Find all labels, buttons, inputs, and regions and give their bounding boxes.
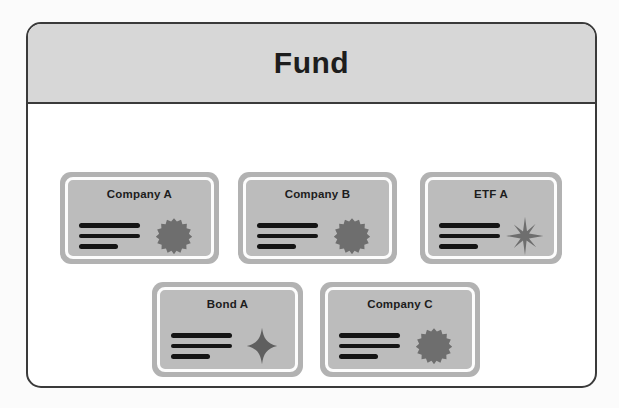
holding-text-lines <box>79 223 140 249</box>
holding-label: Bond A <box>160 298 295 310</box>
holding-text-lines <box>339 333 400 359</box>
text-line <box>171 354 210 359</box>
holding-text-lines <box>171 333 232 359</box>
holding-card-body <box>68 211 211 259</box>
text-line <box>439 223 500 228</box>
holding-card-company-c[interactable]: Company C <box>320 282 480 377</box>
holding-card-company-b[interactable]: Company B <box>238 172 397 264</box>
card-inner-frame: Company A <box>65 177 214 259</box>
text-line <box>257 234 318 239</box>
text-line <box>439 244 478 249</box>
card-inner-frame: ETF A <box>425 177 557 259</box>
diagram-canvas: Fund Company A <box>0 0 619 408</box>
holding-card-body <box>428 211 554 259</box>
text-line <box>339 354 378 359</box>
text-line <box>79 244 118 249</box>
holding-card-etf-a[interactable]: ETF A <box>420 172 562 264</box>
holding-label: Company A <box>68 188 211 200</box>
text-line <box>439 234 500 239</box>
text-line <box>257 244 296 249</box>
holding-card-body <box>246 211 389 259</box>
text-line <box>257 223 318 228</box>
holding-label: Company B <box>246 188 389 200</box>
holdings-area: Company A <box>28 106 595 388</box>
holding-label: ETF A <box>428 188 554 200</box>
fund-header: Fund <box>28 24 595 104</box>
text-line <box>79 223 140 228</box>
holding-card-body <box>328 321 472 371</box>
fund-container: Fund Company A <box>26 22 597 388</box>
text-line <box>79 234 140 239</box>
text-line <box>171 344 232 349</box>
rosette-seal-icon <box>140 217 211 255</box>
holding-text-lines <box>439 223 500 249</box>
text-line <box>339 333 400 338</box>
text-line <box>171 333 232 338</box>
card-inner-frame: Bond A <box>157 287 298 372</box>
holding-text-lines <box>257 223 318 249</box>
rosette-seal-icon <box>318 217 389 255</box>
holding-card-company-a[interactable]: Company A <box>60 172 219 264</box>
holding-card-bond-a[interactable]: Bond A <box>152 282 303 377</box>
fund-title: Fund <box>274 46 349 80</box>
card-inner-frame: Company B <box>243 177 392 259</box>
text-line <box>339 344 400 349</box>
eight-point-sparkle-icon <box>500 216 554 256</box>
holding-card-body <box>160 321 295 371</box>
holding-label: Company C <box>328 298 472 310</box>
four-point-sparkle-icon <box>232 327 295 365</box>
card-inner-frame: Company C <box>325 287 475 372</box>
rosette-seal-icon <box>400 327 472 365</box>
